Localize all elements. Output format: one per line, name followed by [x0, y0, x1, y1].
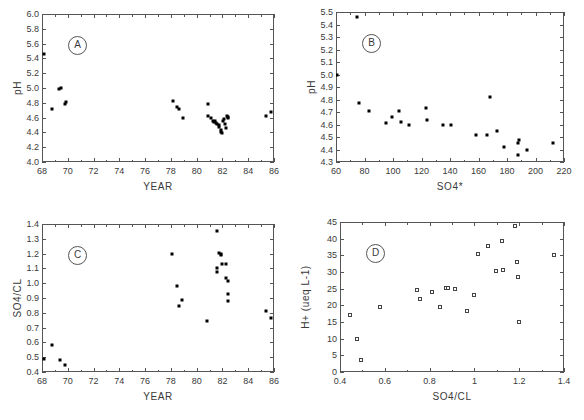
panel-c: 687072747678808284860.40.50.60.70.80.91.… — [0, 210, 292, 420]
y-tick-label: 5.5 — [310, 7, 333, 17]
data-point — [65, 101, 68, 104]
data-point — [59, 359, 62, 362]
x-tick-label: 120 — [414, 166, 429, 176]
y-tick-label: 4.8 — [310, 95, 333, 105]
data-point — [224, 123, 227, 126]
y-tick-label: 1.2 — [16, 249, 39, 259]
data-point — [215, 266, 218, 269]
data-point — [176, 285, 179, 288]
data-point — [513, 224, 517, 228]
y-tick-label: 0.5 — [16, 352, 39, 362]
data-point — [227, 293, 230, 296]
data-point — [221, 262, 224, 265]
x-tick-label: 72 — [89, 376, 99, 386]
x-tick-label: 76 — [140, 376, 150, 386]
y-tick-d — [340, 372, 344, 373]
x-tick-label: 140 — [442, 166, 457, 176]
data-point — [474, 133, 477, 136]
data-point — [224, 126, 227, 129]
data-point — [227, 115, 230, 118]
data-point — [368, 109, 371, 112]
x-tick-label: 1.4 — [558, 376, 571, 386]
x-tick-b — [564, 158, 565, 162]
data-point — [500, 239, 504, 243]
y-tick-label: 4.0 — [16, 157, 39, 167]
data-point — [391, 116, 394, 119]
data-point — [384, 122, 387, 125]
data-point — [486, 244, 490, 248]
x-tick-label: 74 — [114, 166, 124, 176]
y-tick-label: 5.2 — [16, 68, 39, 78]
x-tick-top-d — [564, 222, 565, 226]
x-tick-top-c — [274, 224, 275, 228]
y-tick-label: 4.4 — [16, 127, 39, 137]
data-point — [359, 358, 363, 362]
figure-panel-grid: 687072747678808284864.04.24.44.64.85.05.… — [0, 0, 584, 420]
x-tick-label: 86 — [269, 376, 279, 386]
x-tick-top-a — [274, 14, 275, 18]
data-points-c — [42, 224, 274, 372]
y-tick-label: 35 — [314, 250, 337, 260]
x-tick-label: 78 — [166, 166, 176, 176]
y-tick-right-a — [270, 162, 274, 163]
data-point — [517, 153, 520, 156]
x-tick-d — [564, 368, 565, 372]
data-point — [265, 115, 268, 118]
data-point — [551, 142, 554, 145]
data-point — [181, 298, 184, 301]
x-tick-label: 78 — [166, 376, 176, 386]
x-tick-label: 84 — [243, 376, 253, 386]
y-axis-title-a: pH — [12, 81, 23, 95]
y-tick-label: 4.7 — [310, 107, 333, 117]
data-point — [496, 129, 499, 132]
y-tick-label: 6.0 — [16, 9, 39, 19]
data-point — [205, 319, 208, 322]
panel-a: 687072747678808284864.04.24.44.64.85.05.… — [0, 0, 292, 210]
y-tick-label: 0.6 — [16, 337, 39, 347]
data-point — [517, 320, 521, 324]
data-point — [430, 290, 434, 294]
data-point — [336, 73, 338, 76]
y-tick-label: 4.3 — [310, 157, 333, 167]
x-tick-label: 72 — [89, 166, 99, 176]
y-tick-label: 4.2 — [16, 142, 39, 152]
data-point — [220, 132, 223, 135]
x-tick-label: 70 — [63, 166, 73, 176]
x-tick-label: 80 — [359, 166, 369, 176]
x-tick-label: 80 — [192, 166, 202, 176]
x-tick-label: 80 — [192, 376, 202, 386]
x-tick-label: 160 — [471, 166, 486, 176]
x-tick-label: 200 — [528, 166, 543, 176]
y-tick-label: 5.3 — [310, 32, 333, 42]
y-tick-label: 5.4 — [16, 53, 39, 63]
x-tick-label: 0.6 — [379, 376, 392, 386]
x-axis-title-d: SO4/CL — [432, 391, 471, 402]
y-tick-label: 10 — [314, 334, 337, 344]
y-tick-label: 0.4 — [16, 367, 39, 377]
x-tick-label: 84 — [243, 166, 253, 176]
y-tick-label: 4.6 — [310, 120, 333, 130]
data-point — [269, 317, 272, 320]
x-tick-label: 100 — [385, 166, 400, 176]
data-point — [355, 337, 359, 341]
y-tick-label: 5.0 — [310, 70, 333, 80]
y-tick-label: 5.1 — [310, 57, 333, 67]
data-point — [450, 123, 453, 126]
data-point — [378, 305, 382, 309]
data-point — [525, 148, 528, 151]
panel-d: 0.40.60.811.21.4051015202530354045SO4/CL… — [292, 210, 584, 420]
x-tick-top-b — [564, 12, 565, 16]
x-tick-label: 0.4 — [334, 376, 347, 386]
y-tick-right-b — [560, 162, 564, 163]
data-point — [399, 121, 402, 124]
data-points-d — [340, 222, 564, 372]
data-point — [438, 305, 442, 309]
x-tick-label: 180 — [499, 166, 514, 176]
x-tick-label: 86 — [269, 166, 279, 176]
data-points-b — [336, 12, 564, 162]
data-point — [226, 299, 229, 302]
data-point — [182, 116, 185, 119]
data-point — [515, 260, 519, 264]
y-tick-right-c — [270, 372, 274, 373]
x-tick-label: 82 — [217, 166, 227, 176]
